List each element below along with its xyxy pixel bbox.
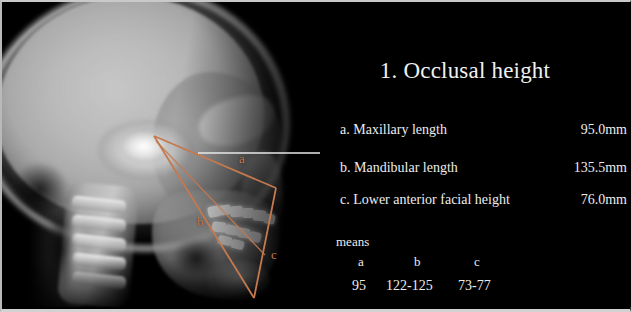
slide-root: a b c 1. Occlusal height a. Maxillary le…: [0, 0, 631, 312]
measurement-row-b: b. Mandibular length 135.5mm: [340, 160, 630, 180]
measurement-value-c: 76.0mm: [581, 192, 627, 208]
maxillary-length-line: [154, 136, 276, 188]
means-caption: means: [336, 234, 369, 250]
xray-label-b: b: [197, 214, 204, 230]
measurement-label-c: c. Lower anterior facial height: [340, 192, 510, 208]
measurements-panel: 1. Occlusal height a. Maxillary length 9…: [320, 2, 631, 307]
means-value-a: 95: [352, 278, 366, 294]
measurement-label-a: a. Maxillary length: [340, 122, 447, 138]
measurement-row-a: a. Maxillary length 95.0mm: [340, 122, 630, 142]
means-header-a: a: [358, 254, 364, 270]
means-value-b: 122-125: [386, 278, 433, 294]
measurement-value-a: 95.0mm: [581, 122, 627, 138]
measurement-row-c: c. Lower anterior facial height 76.0mm: [340, 192, 630, 212]
occlusal-construction-line: [156, 141, 265, 255]
means-value-c: 73-77: [458, 278, 491, 294]
measurement-label-b: b. Mandibular length: [340, 160, 458, 176]
cephalometric-xray-image: a b c: [2, 2, 320, 307]
slide-title: 1. Occlusal height: [320, 58, 610, 84]
xray-label-a: a: [239, 151, 245, 167]
measurement-value-b: 135.5mm: [574, 160, 627, 176]
lower-anterior-facial-height-line: [254, 188, 276, 298]
means-header-c: c: [474, 254, 480, 270]
means-header-b: b: [414, 254, 421, 270]
xray-label-c: c: [271, 247, 277, 263]
